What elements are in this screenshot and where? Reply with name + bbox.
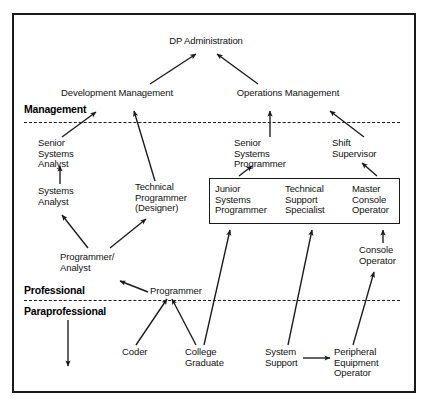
node-programmer: Programmer bbox=[150, 286, 216, 297]
band-label-management: Management bbox=[24, 103, 86, 115]
node-programmer-analyst: Programmer/ Analyst bbox=[60, 252, 132, 273]
node-system-support: System Support bbox=[265, 347, 323, 368]
node-shift-supervisor: Shift Supervisor bbox=[332, 138, 408, 159]
node-dp-administration: DP Administration bbox=[146, 36, 266, 47]
node-technical-support-specialist: Technical Support Specialist bbox=[285, 184, 359, 216]
node-technical-programmer: Technical Programmer (Designer) bbox=[135, 182, 209, 214]
node-junior-systems-programmer: Junior Systems Programmer bbox=[215, 184, 295, 216]
node-console-operator: Console Operator bbox=[359, 245, 425, 266]
node-senior-systems-analyst: Senior Systems Analyst bbox=[38, 138, 108, 170]
node-master-console-operator: Master Console Operator bbox=[352, 184, 414, 216]
band-label-professional: Professional bbox=[24, 284, 85, 296]
node-college-graduate: College Graduate bbox=[185, 347, 247, 368]
node-development-management: Development Management bbox=[50, 88, 184, 99]
diagram-page: Management Professional Paraprofessional… bbox=[0, 0, 428, 417]
node-coder: Coder bbox=[122, 347, 168, 358]
node-peripheral-equipment-operator: Peripheral Equipment Operator bbox=[334, 347, 406, 379]
node-systems-analyst: Systems Analyst bbox=[38, 186, 106, 207]
node-senior-systems-programmer: Senior Systems Programmer bbox=[234, 138, 318, 170]
professional-divider bbox=[24, 300, 400, 301]
band-label-paraprofessional: Paraprofessional bbox=[24, 305, 106, 317]
node-operations-management: Operations Management bbox=[222, 88, 354, 99]
management-divider bbox=[24, 122, 400, 123]
